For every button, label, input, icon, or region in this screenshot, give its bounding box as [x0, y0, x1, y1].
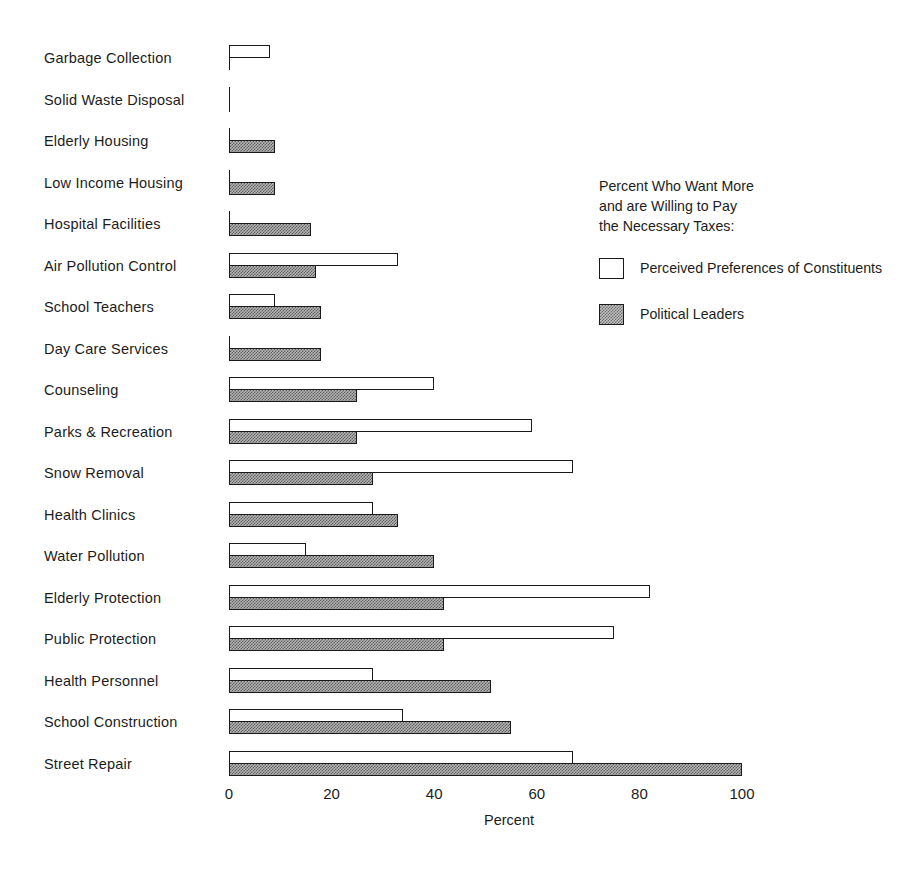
- category-label: Elderly Protection: [44, 591, 234, 606]
- legend-label-constituents: Perceived Preferences of Constituents: [640, 261, 882, 275]
- horizontal-bar-chart: Garbage CollectionSolid Waste DisposalEl…: [0, 0, 915, 879]
- category-label: Air Pollution Control: [44, 259, 234, 274]
- bar-shaded: [229, 389, 357, 402]
- x-tick-label: 80: [631, 786, 648, 801]
- bar-shaded: [229, 223, 311, 236]
- bar-shaded: [229, 182, 275, 195]
- legend-swatch-shaded-icon: [599, 304, 624, 325]
- category-label: Street Repair: [44, 757, 234, 772]
- bar-shaded: [229, 514, 398, 527]
- bar-shaded: [229, 306, 321, 319]
- category-label: Health Clinics: [44, 508, 234, 523]
- category-label: School Teachers: [44, 300, 234, 315]
- chart-legend: Percent Who Want More and are Willing to…: [599, 176, 909, 236]
- category-label: Solid Waste Disposal: [44, 93, 234, 108]
- bar-shaded: [229, 555, 434, 568]
- bar-shaded: [229, 680, 491, 693]
- category-label: Garbage Collection: [44, 51, 234, 66]
- x-tick-label: 0: [225, 786, 233, 801]
- bar-shaded: [229, 99, 232, 112]
- legend-entry-constituents: Perceived Preferences of Constituents: [599, 258, 882, 279]
- bar-shaded: [229, 721, 511, 734]
- bar-shaded: [229, 348, 321, 361]
- bar-shaded: [229, 597, 444, 610]
- category-axis-labels: Garbage CollectionSolid Waste DisposalEl…: [44, 0, 234, 879]
- category-label: Water Pollution: [44, 549, 234, 564]
- legend-entry-political-leaders: Political Leaders: [599, 304, 744, 325]
- category-label: Low Income Housing: [44, 176, 234, 191]
- x-axis-title: Percent: [229, 812, 789, 828]
- category-label: Snow Removal: [44, 466, 234, 481]
- plot-area: [229, 0, 789, 879]
- category-label: Counseling: [44, 383, 234, 398]
- legend-label-political-leaders: Political Leaders: [640, 307, 744, 321]
- x-tick-label: 40: [426, 786, 443, 801]
- bar-shaded: [229, 431, 357, 444]
- category-label: Hospital Facilities: [44, 217, 234, 232]
- x-tick-label: 60: [528, 786, 545, 801]
- bar-shaded: [229, 638, 444, 651]
- bar-shaded: [229, 472, 373, 485]
- x-tick-label: 100: [729, 786, 754, 801]
- bar-shaded: [229, 140, 275, 153]
- category-label: Elderly Housing: [44, 134, 234, 149]
- bar-open: [229, 45, 270, 58]
- category-label: Public Protection: [44, 632, 234, 647]
- category-label: Day Care Services: [44, 342, 234, 357]
- category-label: Health Personnel: [44, 674, 234, 689]
- x-tick-label: 20: [323, 786, 340, 801]
- bar-shaded: [229, 57, 232, 70]
- legend-swatch-open-icon: [599, 258, 624, 279]
- bar-shaded: [229, 763, 742, 776]
- category-label: School Construction: [44, 715, 234, 730]
- category-label: Parks & Recreation: [44, 425, 234, 440]
- bar-shaded: [229, 265, 316, 278]
- legend-title: Percent Who Want More and are Willing to…: [599, 176, 909, 236]
